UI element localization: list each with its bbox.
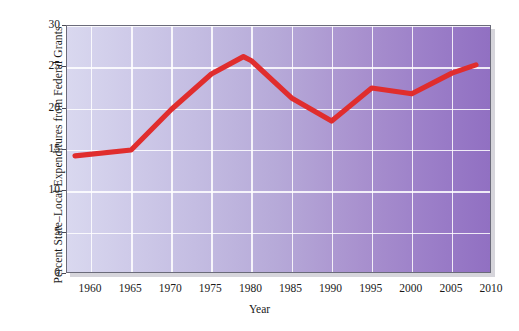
series-polyline: [75, 57, 476, 156]
x-tick-label-1970: 1970: [159, 283, 182, 295]
x-tick-label-1975: 1975: [199, 283, 222, 295]
x-tick-label-1995: 1995: [359, 283, 382, 295]
x-tick-label-1960: 1960: [79, 283, 102, 295]
x-tick-label-1990: 1990: [319, 283, 342, 295]
x-tick-label-2005: 2005: [439, 283, 462, 295]
x-tick-label-1980: 1980: [239, 283, 262, 295]
x-tick-label-1985: 1985: [279, 283, 302, 295]
x-tick-label-1965: 1965: [119, 283, 142, 295]
y-axis-label: Percent State–Local Expenditures from Fe…: [52, 5, 64, 305]
x-tick-label-2010: 2010: [480, 283, 503, 295]
x-tick-label-2000: 2000: [399, 283, 422, 295]
x-axis-label: Year: [0, 303, 519, 315]
plot-area: [66, 25, 491, 273]
chart-figure: 051015202530 196019651970197519801985199…: [0, 0, 519, 331]
data-series-line: [67, 26, 491, 273]
